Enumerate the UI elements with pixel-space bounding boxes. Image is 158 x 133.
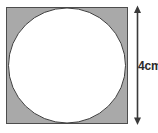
geometry-diagram (0, 0, 158, 133)
figure-canvas: 4cm (0, 0, 158, 133)
arrowhead-up-icon (134, 6, 141, 14)
dimension-label: 4cm (138, 59, 158, 73)
arrowhead-down-icon (134, 118, 141, 126)
inscribed-circle-shape (9, 8, 126, 123)
